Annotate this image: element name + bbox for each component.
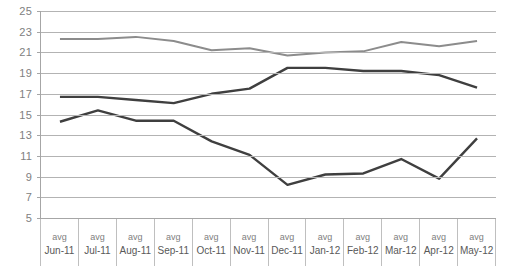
x-axis-category-cell: avgJun-11 [40, 219, 79, 266]
x-axis-category-cell: avgJul-11 [79, 219, 117, 266]
gridline [41, 115, 496, 116]
x-axis-category-cell: avgMar-12 [382, 219, 420, 266]
x-axis-category-label: Jul-11 [84, 244, 111, 258]
y-axis-tick-label: 17 [19, 88, 32, 100]
x-axis-category-label: Nov-11 [233, 244, 265, 258]
y-axis-tick-label: 21 [19, 46, 32, 58]
x-axis-category-label: Dec-11 [271, 244, 303, 258]
y-axis-tick-label: 25 [19, 5, 32, 17]
x-axis-category-prefix: avg [90, 231, 105, 244]
x-axis-category-prefix: avg [431, 231, 446, 244]
y-axis-tick-label: 9 [26, 171, 32, 183]
gridline [41, 94, 496, 95]
x-axis-category-cell: avgFeb-12 [344, 219, 382, 266]
x-axis: avgJun-11avgJul-11avgAug-11avgSep-11avgO… [40, 218, 496, 266]
plot-area [40, 11, 496, 218]
x-axis-category-label: Oct-11 [197, 244, 226, 258]
gridline [41, 177, 496, 178]
x-axis-category-prefix: avg [128, 231, 143, 244]
x-axis-category-prefix: avg [280, 231, 295, 244]
y-axis-tick-label: 23 [19, 26, 32, 38]
x-axis-category-prefix: avg [394, 231, 409, 244]
y-axis-tick-label: 13 [19, 129, 32, 141]
x-axis-category-cell: avgApr-12 [420, 219, 458, 266]
x-axis-category-cell: avgSep-11 [155, 219, 193, 266]
y-axis: 2523211917151311975 [0, 0, 36, 275]
x-axis-category-label: Sep-11 [157, 244, 189, 258]
gridline [41, 197, 496, 198]
y-axis-tick-label: 5 [26, 212, 32, 224]
y-axis-tick-label: 11 [20, 150, 32, 162]
x-axis-category-cell: avgOct-11 [193, 219, 231, 266]
x-axis-category-cell: avgDec-11 [269, 219, 307, 266]
x-axis-category-label: Apr-12 [424, 244, 454, 258]
x-axis-category-label: May-12 [460, 244, 493, 258]
gridline [41, 11, 496, 12]
data-series-line-3 [60, 110, 477, 185]
x-axis-category-cell: avgMay-12 [458, 219, 496, 266]
gridline [41, 32, 496, 33]
gridline [41, 73, 496, 74]
x-axis-category-prefix: avg [204, 231, 219, 244]
gridline [41, 156, 496, 157]
x-axis-category-label: Feb-12 [347, 244, 379, 258]
line-chart: 2523211917151311975 avgJun-11avgJul-11av… [0, 0, 506, 275]
x-axis-category-label: Aug-11 [120, 244, 152, 258]
x-axis-category-cell: avgNov-11 [231, 219, 269, 266]
x-axis-category-cell: avgAug-11 [117, 219, 155, 266]
x-axis-category-prefix: avg [356, 231, 371, 244]
x-axis-category-prefix: avg [52, 231, 67, 244]
gridline [41, 52, 496, 53]
x-axis-category-prefix: avg [318, 231, 333, 244]
x-axis-category-label: Jan-12 [310, 244, 341, 258]
x-axis-category-prefix: avg [166, 231, 181, 244]
y-axis-tick-label: 19 [19, 67, 32, 79]
gridline [41, 135, 496, 136]
x-axis-category-label: Jun-11 [45, 244, 75, 258]
y-axis-tick-label: 15 [19, 109, 32, 121]
x-axis-category-prefix: avg [469, 231, 484, 244]
x-axis-category-label: Mar-12 [385, 244, 417, 258]
y-axis-tick-label: 7 [26, 191, 32, 203]
x-axis-category-cell: avgJan-12 [306, 219, 344, 266]
x-axis-category-prefix: avg [242, 231, 257, 244]
